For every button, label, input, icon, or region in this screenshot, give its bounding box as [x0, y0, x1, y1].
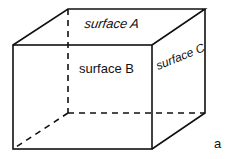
- surface-c-label: surface C: [154, 40, 207, 72]
- surface-a-label: surface A: [84, 16, 140, 31]
- figure-label: a: [214, 136, 222, 151]
- surface-b-label: surface B: [79, 61, 134, 76]
- side-face-outline: [152, 9, 205, 149]
- cuboid-diagram: surface A surface B surface C a: [0, 0, 236, 159]
